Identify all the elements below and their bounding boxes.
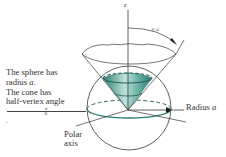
cone-inside-sphere [103, 73, 152, 110]
angle-arrowhead [170, 38, 177, 45]
polar-axis-label-line-2: axis [64, 139, 82, 148]
caption-radius-text: radius [6, 77, 29, 87]
caption-angle-fraction: π 6 [6, 107, 86, 116]
y-axis-line [128, 110, 186, 122]
caption-angle-denominator: 6 [6, 112, 86, 116]
caption-angle-suffix: . [6, 118, 8, 124]
radius-label: Radius a [186, 102, 216, 112]
radius-label-var: a [212, 102, 216, 112]
caption-period: . [33, 77, 35, 87]
cone-top-rim [82, 44, 176, 64]
radius-label-text: Radius [186, 102, 212, 112]
figure-caption: The sphere has radius a. The cone has ha… [6, 68, 86, 127]
caption-line-5: π 6 . [6, 107, 86, 127]
polar-axis-label: Polar axis [64, 130, 82, 148]
angle-label-top: π 6 [151, 28, 160, 31]
z-axis-label: z [124, 2, 126, 8]
angle-denominator: 6 [154, 28, 159, 31]
